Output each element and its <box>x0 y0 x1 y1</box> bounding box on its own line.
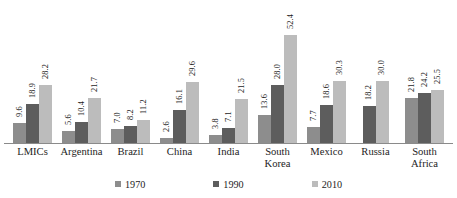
legend-swatch-icon <box>115 181 121 187</box>
bar-1990[interactable] <box>418 93 431 143</box>
bar-1970[interactable] <box>405 98 418 143</box>
category-label: Argentina <box>57 146 106 174</box>
bar-value-label: 7.7 <box>309 110 318 121</box>
bar-item[interactable]: 18.6 <box>320 0 333 143</box>
bar-2010[interactable] <box>137 120 150 143</box>
bar-item[interactable]: 9.6 <box>13 0 26 143</box>
bar-value-label: 10.4 <box>77 101 86 116</box>
bar-item[interactable]: 30.0 <box>376 0 389 143</box>
bar-group: 7.718.630.3 <box>302 0 351 143</box>
bar-item[interactable]: 25.5 <box>431 0 444 143</box>
bar-group: 21.824.225.5 <box>400 0 449 143</box>
bar-item[interactable]: 30.3 <box>333 0 346 143</box>
plot-area: 9.618.928.25.610.421.77.08.211.22.616.12… <box>0 0 457 143</box>
bar-group: 13.628.052.4 <box>253 0 302 143</box>
bar-1990[interactable] <box>124 126 137 143</box>
legend-item[interactable]: 2010 <box>312 179 342 190</box>
bar-value-label: 8.2 <box>126 109 135 120</box>
bar-item[interactable]: 28.0 <box>271 0 284 143</box>
bar-item[interactable]: 18.2 <box>363 0 376 143</box>
bar-2010[interactable] <box>88 98 101 143</box>
bar-item[interactable]: 7.1 <box>222 0 235 143</box>
bar-groups-container: 9.618.928.25.610.421.77.08.211.22.616.12… <box>8 0 449 143</box>
bar-1990[interactable] <box>363 106 376 144</box>
bar-value-label: 25.5 <box>433 69 442 84</box>
bar-value-label: 2.6 <box>162 121 171 132</box>
bar-item[interactable]: 13.6 <box>258 0 271 143</box>
bar-1970[interactable] <box>111 129 124 143</box>
bar-1970[interactable] <box>209 135 222 143</box>
bar-value-label: 29.6 <box>188 61 197 76</box>
bar-item[interactable]: 29.6 <box>186 0 199 143</box>
category-label-line: India <box>204 146 253 158</box>
category-label-line: Russia <box>351 146 400 158</box>
bar-value-label: 30.0 <box>377 60 386 75</box>
chart-legend: 197019902010 <box>0 176 457 192</box>
bar-item[interactable]: 11.2 <box>137 0 150 143</box>
x-axis-line <box>4 143 453 144</box>
bar-item[interactable]: 2.6 <box>160 0 173 143</box>
bar-item[interactable]: 7.7 <box>307 0 320 143</box>
bar-value-label: 18.6 <box>322 84 331 99</box>
bar-item[interactable]: 21.5 <box>235 0 248 143</box>
bar-item[interactable]: 16.1 <box>173 0 186 143</box>
bar-value-label: 7.0 <box>113 112 122 123</box>
bar-1970[interactable] <box>62 131 75 143</box>
category-labels-row: LMICsArgentinaBrazilChinaIndiaSouthKorea… <box>8 146 449 174</box>
bar-item[interactable]: 52.4 <box>284 0 297 143</box>
bar-value-label: 21.8 <box>407 77 416 92</box>
category-label: Mexico <box>302 146 351 174</box>
bar-value-label: 9.6 <box>15 106 24 117</box>
bar-item[interactable]: 28.2 <box>39 0 52 143</box>
bar-2010[interactable] <box>39 85 52 143</box>
bar-1970[interactable] <box>13 123 26 143</box>
legend-label: 1970 <box>125 179 145 190</box>
bar-group: 18.230.0 <box>351 0 400 143</box>
bar-1990[interactable] <box>173 110 186 143</box>
bar-value-label: 21.7 <box>90 77 99 92</box>
bar-value-label: 7.1 <box>224 112 233 123</box>
bar-1970[interactable] <box>307 127 320 143</box>
bar-value-label: 13.6 <box>260 94 269 109</box>
bar-2010[interactable] <box>284 35 297 143</box>
bar-2010[interactable] <box>376 81 389 143</box>
category-label: Russia <box>351 146 400 174</box>
bar-1990[interactable] <box>271 85 284 143</box>
bar-group: 7.08.211.2 <box>106 0 155 143</box>
bar-value-label: 18.2 <box>364 84 373 99</box>
legend-label: 1990 <box>223 179 243 190</box>
bar-item[interactable]: 3.8 <box>209 0 222 143</box>
legend-item[interactable]: 1990 <box>213 179 243 190</box>
category-label-line: Africa <box>400 158 449 170</box>
bar-item[interactable]: 10.4 <box>75 0 88 143</box>
bar-item[interactable]: 5.6 <box>62 0 75 143</box>
bar-1990[interactable] <box>320 105 333 143</box>
bar-1970[interactable] <box>258 115 271 143</box>
bar-item[interactable]: 24.2 <box>418 0 431 143</box>
bar-item[interactable]: 21.7 <box>88 0 101 143</box>
bar-2010[interactable] <box>333 81 346 143</box>
bar-value-label: 24.2 <box>420 72 429 87</box>
legend-swatch-icon <box>213 181 219 187</box>
bar-item[interactable]: 8.2 <box>124 0 137 143</box>
bar-1990[interactable] <box>222 128 235 143</box>
bar-group: 3.87.121.5 <box>204 0 253 143</box>
bar-item[interactable]: 21.8 <box>405 0 418 143</box>
bar-1990[interactable] <box>26 104 39 143</box>
bar-item[interactable]: 7.0 <box>111 0 124 143</box>
bar-1990[interactable] <box>75 122 88 143</box>
legend-item[interactable]: 1970 <box>115 179 145 190</box>
bar-2010[interactable] <box>186 82 199 143</box>
bar-group: 9.618.928.2 <box>8 0 57 143</box>
bar-group: 5.610.421.7 <box>57 0 106 143</box>
bar-value-label: 18.9 <box>28 83 37 98</box>
bar-2010[interactable] <box>235 99 248 143</box>
bar-item[interactable]: 18.9 <box>26 0 39 143</box>
legend-swatch-icon <box>312 181 318 187</box>
bar-value-label: 16.1 <box>175 89 184 104</box>
bar-2010[interactable] <box>431 90 444 143</box>
category-label-line: Mexico <box>302 146 351 158</box>
legend-label: 2010 <box>322 179 342 190</box>
category-label: China <box>155 146 204 174</box>
category-label: SouthAfrica <box>400 146 449 174</box>
